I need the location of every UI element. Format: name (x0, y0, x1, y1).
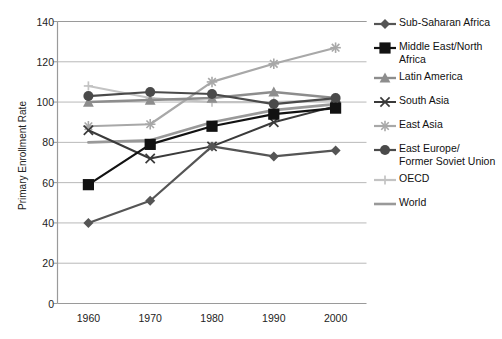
legend-item-world[interactable]: World (374, 196, 502, 210)
legend-marker-icon (374, 174, 396, 186)
marker-circle (83, 91, 93, 101)
chart-legend: Sub-Saharan AfricaMiddle East/North Afri… (374, 16, 502, 220)
marker-square (330, 103, 341, 114)
y-tick-label: 60 (20, 177, 54, 189)
y-tick-label: 40 (20, 217, 54, 229)
legend-item-middle-east-north-africa[interactable]: Middle East/North Africa (374, 40, 502, 65)
x-tick-label: 1960 (77, 312, 100, 324)
marker-diamond (380, 19, 390, 29)
legend-label: East Europe/ Former Soviet Union (399, 142, 495, 167)
legend-marker-icon (374, 198, 396, 210)
marker-diamond (269, 151, 279, 161)
marker-diamond (331, 145, 341, 155)
legend-item-east-asia[interactable]: East Asia (374, 118, 502, 132)
marker-circle (269, 99, 279, 109)
marker-circle (380, 145, 390, 155)
marker-circle (145, 87, 155, 97)
legend-label: Middle East/North Africa (399, 40, 482, 65)
legend-marker-icon (374, 18, 396, 30)
y-tick-label: 120 (20, 56, 54, 68)
y-tick-label: 80 (20, 136, 54, 148)
y-tick-label: 100 (20, 96, 54, 108)
marker-diamond (83, 218, 93, 228)
legend-item-latin-america[interactable]: Latin America (374, 70, 502, 84)
marker-circle (207, 89, 217, 99)
legend-label: Sub-Saharan Africa (399, 16, 490, 29)
marker-square (268, 109, 279, 120)
marker-square (206, 121, 217, 132)
x-tick-label: 2000 (324, 312, 347, 324)
legend-label: South Asia (399, 94, 449, 107)
legend-marker-icon (374, 72, 396, 84)
marker-square (379, 42, 390, 53)
marker-square (83, 179, 94, 190)
legend-label: Latin America (399, 70, 463, 83)
axis-frame (58, 22, 367, 304)
legend-item-sub-saharan-africa[interactable]: Sub-Saharan Africa (374, 16, 502, 30)
series-east-asia (83, 42, 341, 131)
legend-item-east-europe-former-soviet-union[interactable]: East Europe/ Former Soviet Union (374, 142, 502, 167)
marker-square (145, 139, 156, 150)
series-sub-saharan-africa (83, 141, 340, 228)
legend-label: World (399, 196, 426, 209)
x-tick-label: 1980 (200, 312, 223, 324)
legend-item-oecd[interactable]: OECD (374, 172, 502, 186)
legend-marker-icon (374, 96, 396, 108)
legend-item-south-asia[interactable]: South Asia (374, 94, 502, 108)
y-axis-tick-labels: 140120100806040200 (16, 0, 54, 339)
y-tick-label: 140 (20, 16, 54, 28)
x-tick-label: 1990 (262, 312, 285, 324)
legend-label: East Asia (399, 118, 443, 131)
legend-marker-icon (374, 120, 396, 132)
series-line (88, 146, 335, 223)
line-chart: Primary Enrollment Rate 1401201008060402… (0, 0, 502, 339)
legend-marker-icon (374, 42, 396, 54)
legend-marker-icon (374, 144, 396, 156)
y-tick-label: 20 (20, 257, 54, 269)
x-tick-label: 1970 (139, 312, 162, 324)
y-tick-label: 0 (20, 298, 54, 310)
legend-label: OECD (399, 172, 429, 185)
